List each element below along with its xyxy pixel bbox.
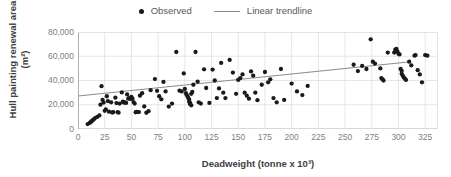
scatter-point [295,89,299,93]
scatter-point [386,50,390,54]
scatter-point [140,91,144,95]
scatter-point [231,70,235,74]
plot-area [78,32,438,129]
scatter-point [238,76,242,80]
x-axis-tick-label: 0 [76,133,81,142]
legend-label-observed: Observed [151,6,192,16]
scatter-point [199,101,203,105]
scatter-point [159,97,163,101]
scatter-point [120,90,124,94]
scatter-point [253,90,257,94]
scatter-point [189,103,193,107]
legend-line-icon [214,11,240,12]
scatter-point [125,92,129,96]
scatter-point [240,72,244,76]
legend-dot-icon [139,9,144,14]
scatter-point [170,101,174,105]
legend-label-trendline: Linear trendline [247,6,313,16]
scatter-point [221,90,225,94]
scatter-point [204,86,208,90]
scatter-point [210,67,214,71]
scatter-point [215,96,219,100]
scatter-point [142,104,146,108]
legend-item-trendline: Linear trendline [214,6,313,16]
scatter-point [260,83,264,87]
scatter-point [182,71,186,75]
scatter-point [289,81,293,85]
scatter-point [306,84,310,88]
scatter-point [163,89,167,93]
x-axis-tick-label: 75 [153,133,162,142]
scatter-point [202,67,206,71]
scatter-point [217,86,221,90]
x-axis-tick-label: 175 [258,133,272,142]
x-axis-tick-label: 25 [100,133,109,142]
scatter-point [418,72,422,76]
x-axis-tick-label: 100 [178,133,192,142]
scatter-point [213,78,217,82]
scatter-point [263,70,267,74]
scatter-point [249,69,253,73]
scatter-point [416,68,420,72]
y-axis-tick-labels: 020,00040,00060,00080,000 [28,32,74,129]
scatter-point [373,61,377,65]
y-axis-title: Hull painting renewal area (m²) [7,0,30,120]
x-axis-tick-label: 50 [127,133,136,142]
x-axis-tick-label: 250 [338,133,352,142]
scatter-point [146,109,150,113]
x-axis-tick-label: 325 [418,133,432,142]
scatter-point [356,69,360,73]
scatter-plot-svg [78,32,438,129]
scatter-point [148,88,152,92]
scatter-point [183,87,187,91]
scatter-point [111,110,115,114]
scatter-point [413,53,417,57]
scatter-point [360,64,364,68]
x-axis-tick-label: 300 [391,133,405,142]
scatter-point [228,58,232,62]
scatter-point [191,83,195,87]
scatter-point [99,84,103,88]
x-axis-tick-labels: 0255075100125150175200225250275300325 [78,133,438,147]
scatter-point [207,101,211,105]
x-axis-tick-label: 275 [365,133,379,142]
scatter-point [381,78,385,82]
scatter-point [109,100,113,104]
scatter-point [255,98,259,102]
scatter-point [105,94,109,98]
scatter-point [97,113,101,117]
x-axis-title: Deadweight (tonne x 10³) [78,158,438,169]
scatter-point [101,100,105,104]
scatter-point [409,63,413,67]
scatter-point [364,67,368,71]
scatter-point [116,110,120,114]
x-axis-tick-label: 150 [231,133,245,142]
scatter-point [223,96,227,100]
scatter-point [124,101,128,105]
scatter-point [190,90,194,94]
scatter-point [397,52,401,56]
chart-container: Observed Linear trendline Hull painting … [0,0,451,177]
legend-item-observed: Observed [139,6,192,16]
chart-legend: Observed Linear trendline [0,2,451,20]
scatter-point [282,98,286,102]
scatter-point [161,80,165,84]
scatter-point [279,67,283,71]
scatter-point [132,101,136,105]
scatter-point [425,53,429,57]
scatter-point [351,63,355,67]
scatter-point [404,78,408,82]
scatter-point [153,77,157,81]
scatter-point [247,97,251,101]
y-axis-tick-label: 0 [30,125,74,134]
scatter-point [378,66,382,70]
x-axis-tick-label: 200 [285,133,299,142]
scatter-point [271,96,275,100]
scatter-point [407,60,411,64]
y-axis-tick-label: 80,000 [30,28,74,37]
scatter-point [300,93,304,97]
scatter-point [193,50,197,54]
y-axis-tick-label: 40,000 [30,76,74,85]
scatter-point [137,110,141,114]
scatter-point [420,80,424,84]
